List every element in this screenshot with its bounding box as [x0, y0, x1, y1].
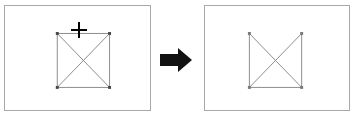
- transition-arrow: [159, 47, 193, 73]
- selection-handle-bottom-left[interactable]: [56, 86, 59, 89]
- selection-handle-bottom-right[interactable]: [108, 86, 111, 89]
- before-panel[interactable]: [4, 5, 151, 111]
- before-shape-canvas: [5, 6, 150, 110]
- arrow-right-icon: [159, 47, 193, 73]
- selection-handle-top-left[interactable]: [56, 32, 59, 35]
- selection-handle-bottom-right[interactable]: [300, 86, 303, 89]
- selection-handle-bottom-left[interactable]: [248, 86, 251, 89]
- selection-handle-top-right[interactable]: [300, 32, 303, 35]
- selection-handle-top-left[interactable]: [248, 32, 251, 35]
- after-panel[interactable]: [204, 5, 350, 111]
- selection-handle-top-right[interactable]: [108, 32, 111, 35]
- scene-root: [0, 0, 355, 118]
- after-shape-canvas: [205, 6, 349, 110]
